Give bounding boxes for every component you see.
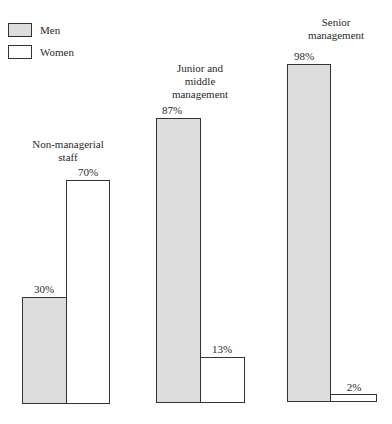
legend-swatch-men: [8, 23, 32, 37]
group-title: Non-managerial staff: [10, 138, 126, 164]
value-label-women: 13%: [200, 343, 244, 355]
bar-women: [200, 357, 245, 403]
legend-label-women: Women: [40, 45, 74, 59]
value-label-men: 98%: [282, 50, 326, 62]
legend-swatch-women: [8, 45, 32, 59]
bar-women: [66, 180, 110, 404]
legend-label-men: Men: [40, 23, 60, 37]
value-label-men: 30%: [22, 283, 66, 295]
group-title: Senior management: [280, 16, 392, 42]
group-title: Junior and middle management: [140, 62, 260, 101]
value-label-women: 70%: [66, 166, 110, 178]
value-label-women: 2%: [332, 381, 376, 393]
bar-women: [330, 394, 377, 402]
bar-men: [287, 64, 331, 402]
value-label-men: 87%: [150, 104, 194, 116]
bar-men: [22, 297, 67, 404]
bar-men: [156, 118, 201, 403]
